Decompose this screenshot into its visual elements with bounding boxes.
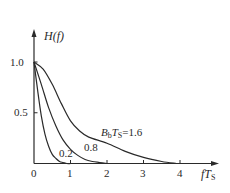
y-tick-label-0.5: 0.5 [14,107,28,118]
curve-label-B: B [101,126,108,138]
y-axis-label: H(f) [44,30,64,42]
x-tick-label-4: 4 [177,168,183,179]
axes [34,34,214,164]
curve-label-value: =1.6 [122,126,142,138]
x-tick-label-0: 0 [31,168,37,179]
ticks [34,62,180,164]
curves [34,62,176,164]
x-axis-arrow-icon [211,161,219,166]
chart-canvas [0,0,230,193]
y-tick-label-1.0: 1.0 [10,57,24,68]
x-tick-label-1: 1 [67,168,73,179]
x-tick-label-2: 2 [104,168,110,179]
y-axis-arrow-icon [32,29,37,37]
x-axis-label-sub: S [211,173,215,182]
x-axis-label: fTS [201,168,215,182]
curve-label-0.2: 0.2 [59,148,73,159]
x-axis-label-main: fT [201,167,211,181]
curve-1.6 [34,62,176,164]
x-tick-label-3: 3 [140,168,146,179]
curve-label-0.8: 0.8 [84,142,98,153]
curve-label-1.6: BbTS=1.6 [101,127,142,140]
